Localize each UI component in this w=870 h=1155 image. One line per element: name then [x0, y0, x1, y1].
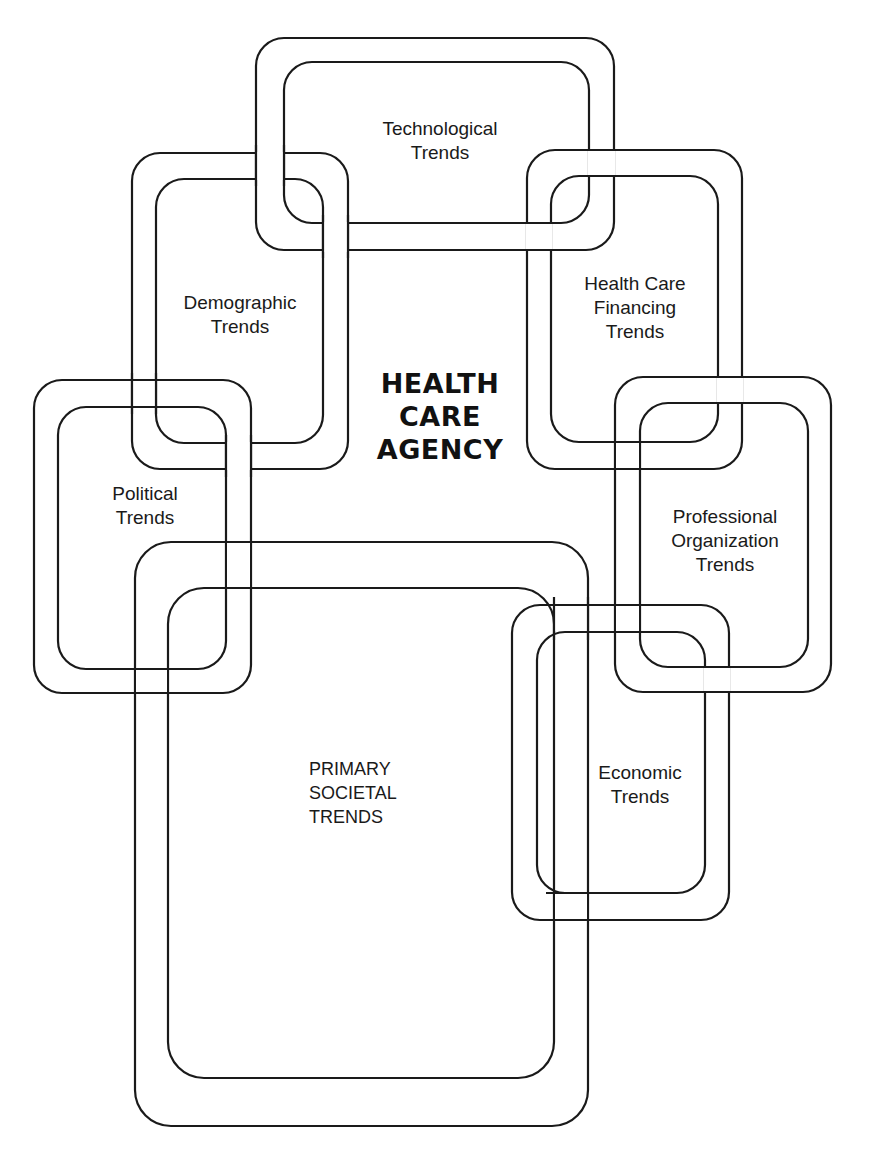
label-technological: Technological Trends: [340, 117, 540, 165]
crossing-pol-over-demo: [226, 435, 251, 477]
label-primary: PRIMARY SOCIETAL TRENDS: [309, 757, 469, 829]
crossing-fin-over-tech: [580, 150, 622, 176]
crossing-prof-over-econ: [697, 667, 737, 692]
crossing-tech-over-demo: [256, 145, 284, 186]
crossing-fin-over-prof: [607, 442, 648, 469]
crossing-tech-over-fin: [519, 223, 559, 250]
interlocking-rings-diagram: .ring { fill: none; stroke: #1a1a1a; str…: [0, 0, 870, 1155]
crossing-demo-over-tech: [323, 215, 348, 258]
label-financing: Health Care Financing Trends: [540, 272, 730, 344]
ring-primary: [135, 542, 588, 1126]
crossing-econ-over-prof: [607, 605, 648, 632]
crossing-prof-over-fin: [710, 377, 750, 403]
ring-political: [34, 380, 251, 693]
label-economic: Economic Trends: [570, 761, 710, 809]
center-title: HEALTH CARE AGENCY: [340, 367, 540, 466]
label-demographic: Demographic Trends: [150, 291, 330, 339]
label-professional: Professional Organization Trends: [630, 505, 820, 577]
crossing-primary-over-pol: [218, 542, 259, 588]
label-political: Political Trends: [60, 482, 230, 530]
